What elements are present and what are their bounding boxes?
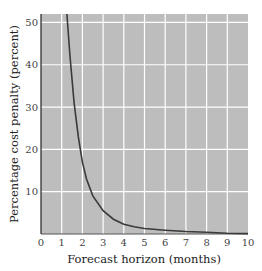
x-tick-label: 6 xyxy=(162,237,168,248)
y-tick-label: 30 xyxy=(25,102,38,113)
x-tick-label: 10 xyxy=(242,237,255,248)
y-tick-label: 50 xyxy=(25,17,38,28)
x-tick-label: 3 xyxy=(100,237,106,248)
x-tick-label: 0 xyxy=(38,237,44,248)
x-tick-label: 7 xyxy=(183,237,189,248)
chart: 012345678910 1020304050 Forecast horizon… xyxy=(0,0,262,271)
x-tick-label: 9 xyxy=(224,237,230,248)
y-tick-labels: 1020304050 xyxy=(25,17,38,197)
x-tick-label: 8 xyxy=(203,237,209,248)
x-tick-label: 1 xyxy=(59,237,65,248)
x-tick-label: 5 xyxy=(141,237,147,248)
x-tick-labels: 012345678910 xyxy=(38,237,255,248)
x-tick-label: 4 xyxy=(121,237,127,248)
y-tick-label: 40 xyxy=(25,59,38,70)
y-axis-label: Percentage cost penalty (percent) xyxy=(7,25,21,223)
x-tick-label: 2 xyxy=(79,237,85,248)
y-tick-label: 20 xyxy=(25,144,38,155)
x-axis-label: Forecast horizon (months) xyxy=(67,252,221,266)
y-tick-label: 10 xyxy=(25,186,38,197)
